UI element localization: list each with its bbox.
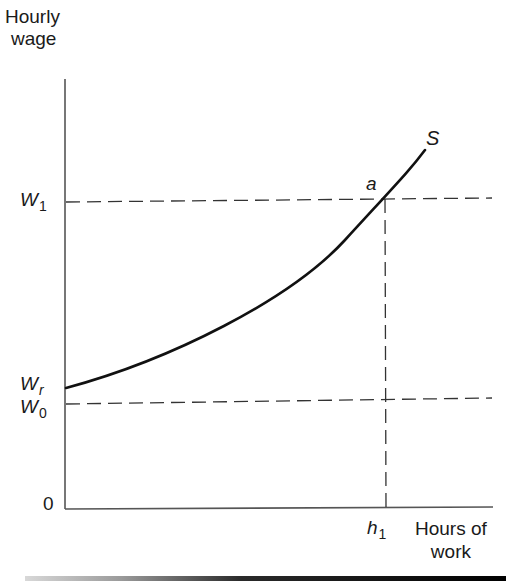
x-tick-h1: h1 (367, 518, 386, 537)
w1-subscript: 1 (39, 198, 47, 214)
h1-label: h (367, 517, 378, 538)
x-axis-title: Hours of work (415, 517, 487, 563)
y-tick-wr: Wr (20, 374, 44, 393)
w0-subscript: 0 (39, 405, 47, 421)
w0-dashed-line (66, 398, 492, 404)
h1-subscript: 1 (379, 526, 387, 542)
wr-label: W (20, 373, 38, 394)
y-tick-w1: W1 (20, 190, 47, 209)
w0-label: W (20, 396, 38, 417)
x-axis-title-line1: Hours of (415, 517, 487, 540)
y-tick-w0: W0 (20, 397, 47, 416)
labor-supply-diagram (0, 0, 514, 581)
h1-dashed-line (385, 199, 386, 508)
bottom-border-bar (25, 576, 506, 581)
origin-label: 0 (43, 494, 54, 513)
curve-s-label: S (426, 128, 439, 148)
point-a-label: a (366, 174, 377, 193)
w1-dashed-line (66, 198, 492, 202)
wr-subscript: r (39, 382, 44, 398)
x-axis (65, 507, 493, 509)
x-axis-title-line2: work (415, 540, 487, 563)
w1-label: W (20, 189, 38, 210)
